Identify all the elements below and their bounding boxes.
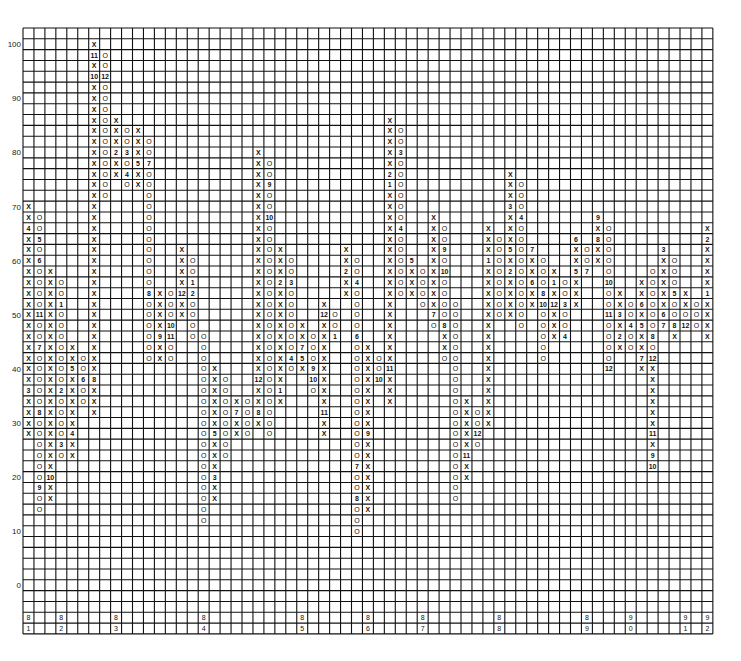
x-box: X	[387, 279, 392, 286]
month-marker: 10	[649, 463, 657, 470]
o-box: O	[672, 301, 678, 308]
o-box: O	[168, 344, 174, 351]
year-label-digit: 9	[629, 614, 633, 621]
x-box: X	[596, 225, 601, 232]
x-box: X	[158, 301, 163, 308]
x-box: X	[366, 506, 371, 513]
x-box: X	[344, 246, 349, 253]
x-box: X	[486, 301, 491, 308]
o-box: O	[518, 268, 524, 275]
o-box: O	[650, 268, 656, 275]
month-marker: 2	[191, 290, 195, 297]
o-box: O	[310, 355, 316, 362]
month-marker: 3	[59, 441, 63, 448]
month-marker: 4	[70, 430, 74, 437]
month-marker: 3	[289, 279, 293, 286]
x-box: X	[278, 268, 283, 275]
o-box: O	[146, 322, 152, 329]
o-box: O	[223, 420, 229, 427]
o-box: O	[442, 225, 448, 232]
x-box: X	[366, 344, 371, 351]
o-box: O	[453, 474, 459, 481]
o-box: O	[398, 181, 404, 188]
x-box: X	[92, 117, 97, 124]
x-box: X	[366, 474, 371, 481]
x-box: X	[530, 290, 535, 297]
x-box: X	[387, 290, 392, 297]
o-box: O	[650, 311, 656, 318]
x-box: X	[212, 495, 217, 502]
x-box: X	[48, 441, 53, 448]
x-box: X	[650, 409, 655, 416]
o-box: O	[37, 214, 43, 221]
x-box: X	[486, 225, 491, 232]
year-label-digit: 5	[300, 625, 304, 632]
o-box: O	[442, 290, 448, 297]
o-box: O	[201, 365, 207, 372]
month-marker: 8	[596, 236, 600, 243]
x-box: X	[256, 214, 261, 221]
y-axis-tick-labels: 0102030405060708090100	[8, 40, 22, 590]
o-box: O	[354, 430, 360, 437]
o-box: O	[59, 376, 65, 383]
x-box: X	[344, 279, 349, 286]
o-box: O	[606, 344, 612, 351]
o-box: O	[497, 246, 503, 253]
o-box: O	[442, 355, 448, 362]
o-box: O	[475, 420, 481, 427]
x-box: X	[212, 463, 217, 470]
month-marker: 11	[320, 409, 328, 416]
month-marker: 2	[508, 268, 512, 275]
x-box: X	[387, 344, 392, 351]
month-marker: 10	[375, 376, 383, 383]
month-marker: 2	[705, 236, 709, 243]
x-box: X	[212, 409, 217, 416]
o-box: O	[540, 279, 546, 286]
year-label-digit: 3	[114, 625, 118, 632]
month-marker: 8	[147, 290, 151, 297]
month-marker: 11	[36, 311, 44, 318]
x-box: X	[92, 398, 97, 405]
x-box: X	[409, 268, 414, 275]
o-box: O	[398, 171, 404, 178]
o-box: O	[453, 376, 459, 383]
x-box: X	[234, 398, 239, 405]
o-box: O	[146, 214, 152, 221]
y-tick-label: 70	[12, 203, 21, 212]
month-marker: 10	[90, 73, 98, 80]
o-box: O	[201, 463, 207, 470]
month-marker: 1	[486, 257, 490, 264]
o-box: O	[453, 420, 459, 427]
o-box: O	[453, 484, 459, 491]
y-tick-label: 40	[12, 365, 21, 374]
o-box: O	[354, 517, 360, 524]
o-box: O	[650, 301, 656, 308]
o-box: O	[124, 160, 130, 167]
x-box: X	[387, 214, 392, 221]
o-box: O	[289, 322, 295, 329]
month-marker: 8	[443, 322, 447, 329]
month-marker: 6	[574, 236, 578, 243]
x-box: X	[409, 279, 414, 286]
x-box: X	[639, 333, 644, 340]
month-marker: 5	[508, 246, 512, 253]
x-box: X	[322, 333, 327, 340]
x-box: X	[486, 420, 491, 427]
x-box: X	[486, 376, 491, 383]
o-box: O	[59, 333, 65, 340]
year-label-digit: 0	[629, 625, 633, 632]
o-box: O	[683, 311, 689, 318]
x-box: X	[387, 301, 392, 308]
month-marker: 5	[213, 430, 217, 437]
o-box: O	[354, 376, 360, 383]
month-marker: 1	[191, 279, 195, 286]
x-box: X	[212, 452, 217, 459]
x-box: X	[70, 452, 75, 459]
o-box: O	[650, 290, 656, 297]
o-box: O	[540, 257, 546, 264]
x-box: X	[661, 268, 666, 275]
x-box: X	[256, 398, 261, 405]
o-box: O	[37, 398, 43, 405]
o-box: O	[332, 311, 338, 318]
o-box: O	[59, 311, 65, 318]
